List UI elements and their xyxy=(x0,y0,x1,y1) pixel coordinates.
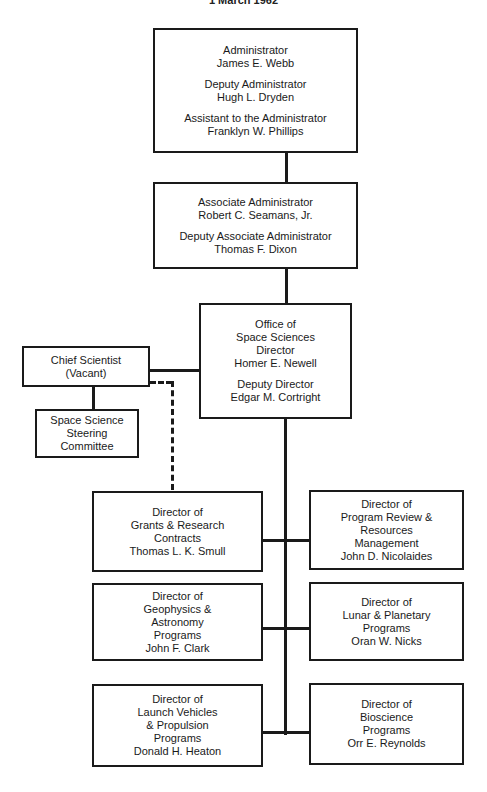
connector-oss-spine xyxy=(284,418,287,735)
grants-research-box: Director of Grants & Research Contracts … xyxy=(92,491,263,572)
person-name: Donald H. Heaton xyxy=(134,745,221,758)
box-line: Director of xyxy=(361,698,412,711)
box-line: Geophysics & xyxy=(144,603,212,616)
dashed-connector-vertical xyxy=(171,381,174,490)
box-line: Programs xyxy=(154,732,202,745)
person-name: Franklyn W. Phillips xyxy=(184,125,326,138)
oss-director-group: Office of Space Sciences Director Homer … xyxy=(234,318,317,370)
assistant-group: Assistant to the Administrator Franklyn … xyxy=(184,112,326,138)
box-line: Space Science xyxy=(50,414,123,427)
box-line: Committee xyxy=(60,440,113,453)
deputy-administrator-group: Deputy Administrator Hugh L. Dryden xyxy=(204,78,306,104)
dashed-connector-horizontal xyxy=(150,381,172,384)
role-title: Deputy Director xyxy=(231,378,321,391)
person-name: James E. Webb xyxy=(217,57,294,70)
role-title: Administrator xyxy=(217,44,294,57)
person-name: Edgar M. Cortright xyxy=(231,391,321,404)
steering-committee-box: Space Science Steering Committee xyxy=(35,409,139,458)
box-line: Management xyxy=(354,537,418,550)
box-line: Launch Vehicles xyxy=(137,706,217,719)
box-line: Director xyxy=(234,344,317,357)
person-name: Oran W. Nicks xyxy=(351,635,421,648)
box-line: Lunar & Planetary xyxy=(342,609,430,622)
administrator-box: Administrator James E. Webb Deputy Admin… xyxy=(153,28,358,153)
associate-administrator-box: Associate Administrator Robert C. Seaman… xyxy=(153,182,358,269)
connector-admin-to-associate xyxy=(285,152,288,182)
lunar-planetary-box: Director of Lunar & Planetary Programs O… xyxy=(309,582,464,661)
connector-row1 xyxy=(262,539,310,542)
box-line: Program Review & xyxy=(341,511,433,524)
box-line: Director of xyxy=(152,506,203,519)
box-line: Director of xyxy=(152,590,203,603)
box-line: Resources xyxy=(360,524,413,537)
person-name: Homer E. Newell xyxy=(234,357,317,370)
box-line: & Propulsion xyxy=(146,719,208,732)
box-line: Contracts xyxy=(154,532,201,545)
launch-vehicles-box: Director of Launch Vehicles & Propulsion… xyxy=(92,684,263,767)
chief-scientist-box: Chief Scientist (Vacant) xyxy=(22,346,150,387)
box-line: Programs xyxy=(363,622,411,635)
role-title: Deputy Associate Administrator xyxy=(179,230,331,243)
role-title: Associate Administrator xyxy=(198,196,313,209)
office-space-sciences-box: Office of Space Sciences Director Homer … xyxy=(199,303,352,419)
role-title: Deputy Administrator xyxy=(204,78,306,91)
person-name: John D. Nicolaides xyxy=(341,550,433,563)
administrator-group: Administrator James E. Webb xyxy=(217,44,294,70)
connector-chief-scientist xyxy=(149,369,200,372)
box-line: Astronomy xyxy=(151,616,204,629)
person-name: Thomas F. Dixon xyxy=(179,243,331,256)
box-line: Space Sciences xyxy=(234,331,317,344)
bioscience-box: Director of Bioscience Programs Orr E. R… xyxy=(309,683,464,765)
connector-row3 xyxy=(262,731,310,734)
box-line: Programs xyxy=(154,629,202,642)
connector-associate-to-oss xyxy=(285,268,288,304)
chart-date: 1 March 1962 xyxy=(0,0,487,6)
deputy-associate-group: Deputy Associate Administrator Thomas F.… xyxy=(179,230,331,256)
box-line: Director of xyxy=(361,596,412,609)
person-name: Robert C. Seamans, Jr. xyxy=(198,209,313,222)
role-title: Chief Scientist xyxy=(51,354,121,367)
box-line: Steering xyxy=(67,427,108,440)
box-line: Director of xyxy=(361,498,412,511)
box-line: Grants & Research xyxy=(131,519,225,532)
person-name: Orr E. Reynolds xyxy=(347,737,425,750)
box-line: Office of xyxy=(234,318,317,331)
box-line: Director of xyxy=(152,693,203,706)
associate-administrator-group: Associate Administrator Robert C. Seaman… xyxy=(198,196,313,222)
person-name: (Vacant) xyxy=(66,367,107,380)
person-name: John F. Clark xyxy=(145,642,209,655)
connector-steering-committee xyxy=(92,386,95,410)
person-name: Hugh L. Dryden xyxy=(204,91,306,104)
program-review-box: Director of Program Review & Resources M… xyxy=(309,490,464,570)
box-line: Bioscience xyxy=(360,711,413,724)
geophysics-astronomy-box: Director of Geophysics & Astronomy Progr… xyxy=(92,583,263,661)
box-line: Programs xyxy=(363,724,411,737)
connector-row2 xyxy=(262,627,310,630)
role-title: Assistant to the Administrator xyxy=(184,112,326,125)
oss-deputy-group: Deputy Director Edgar M. Cortright xyxy=(231,378,321,404)
person-name: Thomas L. K. Smull xyxy=(130,545,226,558)
